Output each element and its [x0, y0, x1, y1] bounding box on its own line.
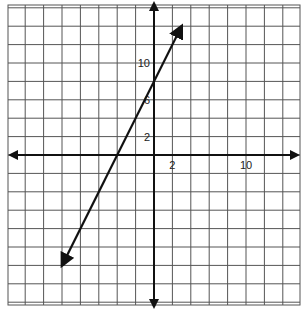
y-tick-label: 10 [138, 57, 150, 69]
y-tick-label: 2 [144, 131, 150, 143]
axes [10, 3, 298, 307]
coordinate-plane: 2102610 [0, 0, 302, 312]
x-tick-label: 10 [240, 159, 252, 171]
x-tick-label: 2 [169, 159, 175, 171]
